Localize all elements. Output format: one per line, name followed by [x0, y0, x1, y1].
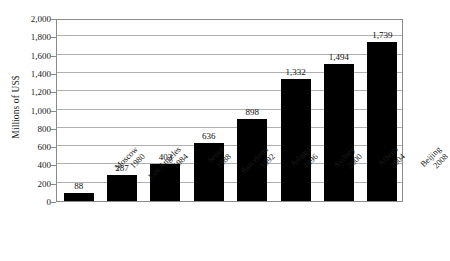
y-axis-tick-label: 1,800: [5, 33, 51, 42]
y-axis-tick-label: 2,000: [5, 15, 51, 24]
bar-value-label: 898: [245, 108, 259, 117]
y-axis-tick-label: 1,200: [5, 88, 51, 97]
y-axis-tick-label: 600: [5, 143, 51, 152]
y-axis-tick-label: 0: [5, 198, 51, 207]
y-axis-tick-label: 1,000: [5, 106, 51, 115]
bar-slot: 88: [57, 20, 100, 201]
bar-value-label: 1,494: [329, 53, 349, 62]
y-axis-tick-label: 400: [5, 161, 51, 170]
bar-value-label: 1,739: [372, 31, 392, 40]
y-axis-tick-label: 800: [5, 124, 51, 133]
y-axis-tick-label: 1,600: [5, 51, 51, 60]
bar-value-label: 1,332: [285, 68, 305, 77]
y-axis-tick-label: 200: [5, 179, 51, 188]
bar-value-label: 636: [202, 132, 216, 141]
y-axis-tick-mark: [51, 202, 56, 203]
bar-value-label: 88: [74, 182, 83, 191]
y-axis-tick-label: 1,400: [5, 69, 51, 78]
